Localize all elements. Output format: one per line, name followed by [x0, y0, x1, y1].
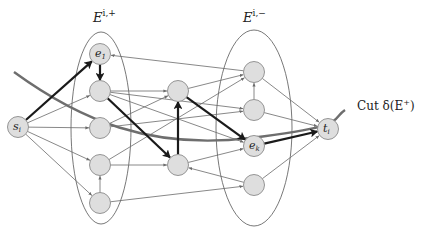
graph-diagram: sie1ekti Ei,+ Ei,− Cut δ(E+): [0, 0, 422, 237]
cut-label: Cut δ(E+): [357, 98, 415, 113]
node-s: si: [8, 117, 29, 138]
edge-R1-e1: [111, 55, 244, 71]
edge-s-L3: [28, 127, 89, 128]
path-edge-s-e1: [26, 61, 92, 120]
node-R1: [244, 62, 265, 83]
highlighted-path-edges: [26, 61, 317, 157]
graph-edges: [26, 55, 320, 202]
graph-nodes: sie1ekti: [8, 44, 339, 214]
node-R4: [244, 175, 265, 196]
node-L5: [90, 193, 111, 214]
set-label-e-minus: Ei,−: [242, 8, 266, 25]
edge-L5-R4: [110, 186, 243, 202]
edge-M1-R1: [188, 75, 243, 89]
node-L4: [90, 155, 111, 176]
edge-M2-ek: [188, 149, 243, 163]
edge-s-L4: [28, 131, 90, 160]
node-R2: [244, 100, 265, 121]
node-L2: [90, 81, 111, 102]
set-label-e-plus: Ei,+: [92, 8, 116, 25]
edge-R4-M2: [189, 168, 244, 183]
node-t: ti: [318, 119, 339, 140]
node-M2: [168, 155, 189, 176]
node-ek: ek: [244, 136, 265, 157]
node-e1: e1: [90, 44, 111, 65]
edge-s-L5: [26, 134, 92, 195]
node-L3: [90, 118, 111, 139]
node-M1: [168, 81, 189, 102]
edge-R1-t: [262, 78, 319, 122]
